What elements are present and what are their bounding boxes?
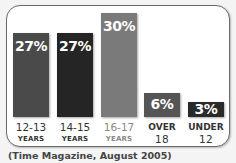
bar-value: 6% [144, 96, 180, 112]
label-line1: OVER [140, 121, 184, 133]
label-12-13: 12-13YEARS [9, 121, 53, 145]
bar-value: 3% [188, 102, 224, 117]
bar-over-18: 6% [144, 93, 180, 117]
label-line1: 16-17 [97, 121, 141, 133]
bar-16-17: 30% [101, 13, 137, 117]
label-line2: YEARS [9, 133, 53, 145]
label-line2: 12 [184, 133, 228, 145]
label-16-17: 16-17YEARS [97, 121, 141, 145]
bar-value: 30% [101, 18, 137, 34]
label-over-18: OVER18 [140, 121, 184, 145]
label-14-15: 14-15YEARS [53, 121, 97, 145]
bar-14-15: 27% [57, 33, 93, 117]
label-line2: YEARS [53, 133, 97, 145]
label-under-12: UNDER12 [184, 121, 228, 145]
bar-12-13: 27% [13, 33, 49, 117]
label-line1: 14-15 [53, 121, 97, 133]
label-line1: 12-13 [9, 121, 53, 133]
bar-value: 27% [57, 38, 93, 54]
label-line1: UNDER [184, 121, 228, 133]
label-line2: YEARS [97, 133, 141, 145]
bar-under-12: 3% [188, 102, 224, 117]
bar-value: 27% [13, 38, 49, 54]
label-line2: 18 [140, 133, 184, 145]
source-caption: (Time Magazine, August 2005) [8, 150, 172, 161]
